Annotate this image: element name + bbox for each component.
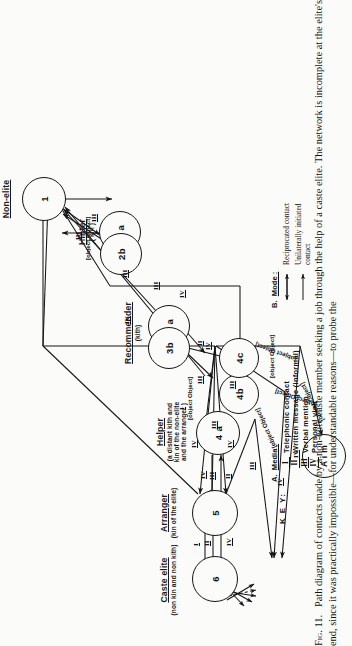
edge-label-4b-4a: III: [210, 421, 218, 429]
figure-caption-text: Path diagram of contacts made by a non-e…: [313, 0, 338, 646]
edge-label-hub-5-b: III: [208, 472, 216, 480]
edge-label-4c-4b: III: [228, 381, 236, 389]
edge-label-3a-1: III: [152, 282, 160, 290]
figure-caption: Fig. 11. Path diagram of contacts made b…: [312, 0, 339, 646]
media-numeral: I: [282, 457, 290, 468]
key-media-title: Media :: [270, 444, 279, 470]
column-head-caste-elite: Caste elite (non kin and non kith): [160, 524, 177, 636]
column-head-recommender: Recommender (kith): [124, 278, 141, 388]
column-head-non-elite: Non-elite: [2, 162, 12, 236]
edge-label-1-2b: III: [90, 214, 98, 222]
key-word: K E Y:: [278, 493, 287, 524]
key-mode-item-unilateral: Unilaterally initiated contact: [294, 203, 313, 304]
node-1[interactable]: 1: [22, 177, 66, 221]
media-numeral: III: [301, 457, 309, 468]
node-label: 4b: [234, 388, 245, 400]
rotated-figure-frame: 1 2 a 2b 3 a 3b 4 a 4b: [0, 0, 352, 646]
annotation-kith: [object Object]: [84, 217, 91, 260]
single-arrow-icon: [299, 270, 307, 304]
edge-label-hub-4a: I: [178, 407, 186, 410]
node-label: 4c: [234, 352, 245, 363]
node-label: 3b: [164, 342, 175, 354]
figure-number: Fig. 11.: [313, 615, 324, 646]
media-label: Verbal mention: [301, 396, 310, 453]
edge-label-2a-1: III: [74, 232, 82, 240]
edge-label-2b-1: III: [121, 270, 129, 278]
media-label: Written message (informal): [291, 350, 300, 453]
edge-label-hub-5-c: IV: [226, 440, 234, 448]
mode-label: Unilaterally initiated contact: [294, 204, 313, 265]
key-media-section: A.: [270, 474, 279, 482]
mode-label: Reciprocated contact: [282, 203, 292, 265]
edge-label-hub-5-a: IV: [190, 440, 198, 448]
node-label: 6: [210, 576, 221, 582]
figure-wrapper: 1 2 a 2b 3 a 3b 4 a 4b: [0, 0, 352, 646]
node-5[interactable]: 5: [192, 490, 238, 536]
column-head-helper: Helper (a distant kith and kin of the no…: [156, 384, 188, 480]
node-label: 1: [39, 196, 50, 202]
edge-label-4a-1: IV: [123, 316, 131, 324]
double-arrow-icon: [283, 270, 291, 304]
key-mode-section: B.: [270, 300, 279, 308]
edge-label-4a-5-a: IV: [199, 471, 207, 479]
node-6[interactable]: 6: [192, 556, 238, 602]
key-mode-title: Mode :: [270, 272, 279, 296]
key-mode-item-reciprocated: Reciprocated contact: [282, 203, 292, 304]
media-label: Telephonic contact: [282, 381, 291, 453]
key-mode-block: B. Mode :: [270, 203, 313, 308]
key-media-heading: A. Media :: [270, 350, 279, 482]
figure-page: 1 2 a 2b 3 a 3b 4 a 4b: [0, 0, 352, 646]
node-2b[interactable]: 2b: [100, 233, 142, 275]
node-3b[interactable]: 3b: [148, 327, 190, 369]
edge-label-3a-4a: II: [196, 341, 204, 346]
edge-label-3b-4c: IV: [204, 342, 212, 350]
key-media-item: I Telephonic contact: [282, 350, 291, 468]
edge-label-5-6-a: I: [192, 543, 200, 546]
key-mode-heading: B. Mode :: [270, 203, 279, 308]
node-label: 5: [210, 510, 221, 516]
node-4a[interactable]: 4 a: [196, 411, 240, 455]
media-numeral: II: [291, 457, 299, 468]
edge-label-3b-4b: III: [196, 376, 204, 384]
edge-label-4c-hub-iv: IV: [178, 290, 186, 298]
node-label: 2b: [116, 248, 127, 260]
key-media-item: II Written message (informal): [291, 350, 300, 468]
key-media-item: III Verbal mention: [301, 350, 310, 468]
edge-label-5-6-c: IV: [225, 538, 233, 546]
annotation-kith-of-3b: [object Object]: [186, 377, 193, 420]
edge-label-4a-5-b: II: [224, 474, 232, 479]
edge-label-5-6-b: II: [203, 541, 211, 546]
